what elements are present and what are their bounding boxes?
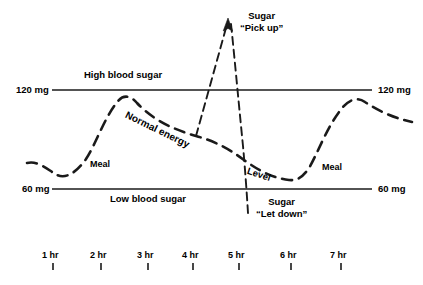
callout-sugar-let-down: Sugar “Let down” xyxy=(256,196,307,219)
annotation-meal-second: Meal xyxy=(322,163,342,172)
time-axis-label-2hr: 2 hr xyxy=(90,251,107,260)
axis-label-low-left: 60 mg xyxy=(22,184,49,194)
time-axis-label-3hr: 3 hr xyxy=(137,251,154,260)
callout-sugar-pick-up-line1: Sugar xyxy=(240,10,283,22)
band-label-high-blood-sugar: High blood sugar xyxy=(84,70,162,80)
callout-sugar-let-down-line2: “Let down” xyxy=(256,208,307,220)
callout-sugar-pick-up: Sugar “Pick up” xyxy=(240,10,283,33)
time-axis-label-1hr: 1 hr xyxy=(42,251,59,260)
sugar-letdown-drop-line xyxy=(231,24,248,213)
callout-sugar-let-down-line1: Sugar xyxy=(256,196,307,208)
sugar-pickup-spike-line xyxy=(196,28,226,136)
axis-label-high-left: 120 mg xyxy=(16,85,49,95)
blood-sugar-chart: 120 mg 120 mg 60 mg 60 mg High blood sug… xyxy=(0,0,423,285)
time-axis-label-5hr: 5 hr xyxy=(228,251,245,260)
annotation-meal-first: Meal xyxy=(90,160,110,169)
normal-energy-curve xyxy=(27,97,412,181)
chart-drawing-surface xyxy=(0,0,423,285)
time-axis-label-7hr: 7 hr xyxy=(330,251,347,260)
time-axis-tick-marks xyxy=(53,263,341,270)
band-label-low-blood-sugar: Low blood sugar xyxy=(110,194,186,204)
callout-sugar-pick-up-line2: “Pick up” xyxy=(240,22,283,34)
axis-label-high-right: 120 mg xyxy=(378,85,411,95)
axis-label-low-right: 60 mg xyxy=(378,184,405,194)
time-axis-label-4hr: 4 hr xyxy=(182,251,199,260)
time-axis-label-6hr: 6 hr xyxy=(280,251,297,260)
